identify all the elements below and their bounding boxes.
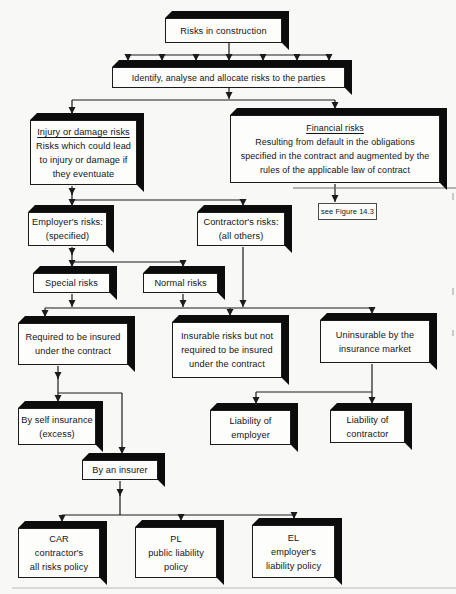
node-label: PL bbox=[170, 532, 181, 546]
node-face: Injury or damage risks Risks which could… bbox=[30, 120, 137, 185]
connector-lines bbox=[0, 0, 456, 594]
node-face: Contractor's risks: (all others) bbox=[197, 212, 285, 246]
node-identify-allocate: Identify, analyse and allocate risks to … bbox=[112, 67, 345, 88]
node-label: Liability of bbox=[229, 414, 271, 428]
node-label: contractor bbox=[347, 427, 389, 441]
node-label: insurance market bbox=[339, 342, 411, 356]
node-required-insured: Required to be insured under the contrac… bbox=[18, 323, 128, 365]
node-insurable-not-required: Insurable risks but not required to be i… bbox=[172, 322, 282, 378]
node-label: (excess) bbox=[39, 427, 75, 441]
node-el-policy: EL employer's liability policy bbox=[252, 525, 335, 578]
node-face: EL employer's liability policy bbox=[252, 525, 335, 578]
node-face: Normal risks bbox=[143, 273, 218, 293]
node-label: By self insurance bbox=[21, 413, 93, 427]
node-financial-risks: Financial risks Resulting from default i… bbox=[230, 115, 440, 183]
node-label: Normal risks bbox=[154, 276, 206, 290]
node-label: Risks which could lead bbox=[36, 139, 131, 153]
node-face: Liability of contractor bbox=[330, 410, 405, 443]
node-liability-of-contractor: Liability of contractor bbox=[330, 410, 405, 443]
node-face: CAR contractor's all risks policy bbox=[18, 528, 100, 578]
node-label: Special risks bbox=[45, 276, 98, 290]
node-label: under the contract bbox=[35, 344, 111, 358]
node-face: Financial risks Resulting from default i… bbox=[230, 115, 440, 183]
node-face: Risks in construction bbox=[165, 18, 282, 43]
node-normal-risks: Normal risks bbox=[143, 273, 218, 293]
node-face: Liability of employer bbox=[210, 410, 291, 445]
flowchart-figure: Risks in construction Identify, analyse … bbox=[0, 0, 456, 594]
node-label: all risks policy bbox=[30, 560, 88, 574]
node-label: they eventuate bbox=[53, 167, 115, 181]
node-label: Resulting from default in the obligation… bbox=[255, 135, 415, 149]
node-label: policy bbox=[164, 560, 188, 574]
node-label: under the contract bbox=[189, 357, 265, 371]
node-label: EL bbox=[288, 531, 299, 545]
node-car-policy: CAR contractor's all risks policy bbox=[18, 528, 100, 578]
node-label: (all others) bbox=[219, 229, 264, 243]
node-self-insurance: By self insurance (excess) bbox=[18, 408, 96, 445]
node-special-risks: Special risks bbox=[33, 273, 110, 293]
node-label: Risks in construction bbox=[180, 24, 266, 38]
node-label: Contractor's risks: bbox=[203, 215, 278, 229]
node-face: Uninsurable by the insurance market bbox=[320, 320, 430, 363]
node-label: By an insurer bbox=[92, 463, 147, 477]
node-face: By an insurer bbox=[82, 460, 158, 480]
node-label: specified in the contract and augmented … bbox=[241, 149, 430, 163]
node-pl-policy: PL public liability policy bbox=[135, 527, 217, 578]
node-label: liability policy bbox=[266, 559, 321, 573]
node-label: Uninsurable by the bbox=[336, 328, 414, 342]
node-face: see Figure 14.3 bbox=[318, 203, 377, 220]
node-face: Insurable risks but not required to be i… bbox=[172, 322, 282, 378]
node-label: Insurable risks but not bbox=[181, 329, 273, 343]
node-liability-of-employer: Liability of employer bbox=[210, 410, 291, 445]
node-label: required to be insured bbox=[181, 343, 273, 357]
node-face: Required to be insured under the contrac… bbox=[18, 323, 128, 365]
node-see-figure-ref: see Figure 14.3 bbox=[318, 203, 377, 220]
node-label: employer's bbox=[271, 545, 316, 559]
node-by-an-insurer: By an insurer bbox=[82, 460, 158, 480]
node-face: By self insurance (excess) bbox=[18, 408, 96, 445]
node-label: (specified) bbox=[46, 229, 89, 243]
node-label: to injury or damage if bbox=[40, 153, 128, 167]
node-label: Liability of bbox=[346, 413, 388, 427]
node-label: Employer's risks: bbox=[32, 215, 103, 229]
node-label: CAR bbox=[49, 532, 69, 546]
node-label: contractor's bbox=[35, 546, 83, 560]
node-face: PL public liability policy bbox=[135, 527, 217, 578]
node-contractors-risks: Contractor's risks: (all others) bbox=[197, 212, 285, 246]
node-title: Injury or damage risks bbox=[37, 125, 130, 139]
node-face: Employer's risks: (specified) bbox=[28, 212, 107, 246]
node-label: rules of the applicable law of contract bbox=[260, 163, 410, 177]
node-label: public liability bbox=[148, 546, 204, 560]
node-label: see Figure 14.3 bbox=[321, 207, 374, 217]
node-employers-risks: Employer's risks: (specified) bbox=[28, 212, 107, 246]
node-face: Special risks bbox=[33, 273, 110, 293]
node-injury-damage-risks: Injury or damage risks Risks which could… bbox=[30, 120, 137, 185]
node-uninsurable: Uninsurable by the insurance market bbox=[320, 320, 430, 363]
node-label: Required to be insured bbox=[25, 330, 120, 344]
node-face: Identify, analyse and allocate risks to … bbox=[112, 67, 345, 88]
node-risks-in-construction: Risks in construction bbox=[165, 18, 282, 43]
node-title: Financial risks bbox=[306, 121, 364, 135]
node-label: employer bbox=[231, 428, 270, 442]
node-label: Identify, analyse and allocate risks to … bbox=[132, 71, 325, 85]
